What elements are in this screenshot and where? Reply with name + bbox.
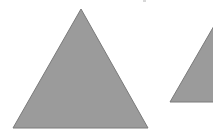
faint-mark xyxy=(143,0,146,2)
shapes-canvas xyxy=(0,0,213,135)
large-triangle xyxy=(13,9,148,128)
small-triangle-clipped xyxy=(170,12,213,102)
